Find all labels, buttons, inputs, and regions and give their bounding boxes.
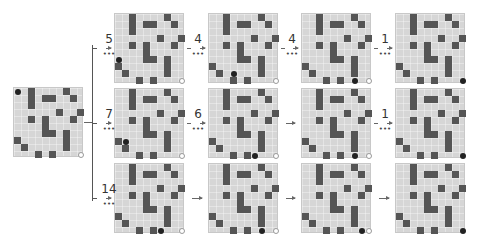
wall-cell: [129, 171, 136, 178]
wall-cell: [431, 77, 438, 84]
wall-cell: [445, 220, 452, 227]
wall-cell: [417, 77, 424, 84]
wall-cell: [223, 178, 230, 185]
wall-cell: [351, 213, 358, 220]
wall-cell: [351, 145, 358, 152]
wall-cell: [309, 220, 316, 227]
wall-cell: [265, 117, 272, 124]
wall-cell: [223, 21, 230, 28]
wall-cell: [216, 145, 223, 152]
wall-cell: [115, 138, 122, 145]
wall-cell: [431, 21, 438, 28]
wall-cell: [150, 206, 157, 213]
wall-cell: [337, 206, 344, 213]
wall-cell: [351, 164, 358, 171]
wall-cell: [251, 110, 258, 117]
wall-cell: [445, 63, 452, 70]
wall-cell: [337, 131, 344, 138]
agent-icon: [460, 153, 466, 159]
connector-line: [84, 122, 92, 123]
wall-cell: [424, 117, 431, 124]
wall-cell: [358, 21, 365, 28]
wall-cell: [351, 89, 358, 96]
wall-cell: [251, 35, 258, 42]
wall-cell: [330, 124, 337, 131]
wall-cell: [63, 137, 70, 144]
wall-cell: [410, 164, 417, 171]
wall-cell: [445, 164, 452, 171]
wall-cell: [445, 14, 452, 21]
wall-cell: [330, 171, 337, 178]
wall-cell: [223, 96, 230, 103]
wall-cell: [410, 42, 417, 49]
wall-cell: [323, 152, 330, 159]
wall-cell: [164, 220, 171, 227]
wall-cell: [265, 171, 272, 178]
step-count-label: 7: [97, 107, 121, 121]
wall-cell: [424, 192, 431, 199]
wall-cell: [431, 227, 438, 234]
wall-cell: [171, 96, 178, 103]
wall-cell: [452, 42, 459, 49]
agent-icon: [359, 228, 365, 234]
wall-cell: [129, 96, 136, 103]
wall-cell: [258, 63, 265, 70]
step-count-label: 6: [186, 107, 210, 121]
wall-cell: [410, 14, 417, 21]
wall-cell: [316, 14, 323, 21]
wall-cell: [410, 171, 417, 178]
wall-cell: [209, 213, 216, 220]
wall-cell: [258, 213, 265, 220]
step-count-label: 1: [373, 107, 397, 121]
wall-cell: [143, 42, 150, 49]
wall-cell: [164, 213, 171, 220]
wall-cell: [209, 138, 216, 145]
step-count-label: 4: [186, 32, 210, 46]
wall-cell: [129, 117, 136, 124]
wall-cell: [150, 227, 157, 234]
wall-cell: [164, 131, 171, 138]
ellipsis-dots: •••: [186, 125, 210, 133]
wall-cell: [403, 220, 410, 227]
wall-cell: [424, 21, 431, 28]
goal-icon: [273, 153, 279, 159]
step-count-label: 5: [97, 32, 121, 46]
wall-cell: [42, 123, 49, 130]
wall-cell: [417, 227, 424, 234]
wall-cell: [143, 124, 150, 131]
wall-cell: [129, 42, 136, 49]
initial-grid: [13, 87, 83, 157]
wall-cell: [337, 227, 344, 234]
wall-cell: [122, 220, 129, 227]
arrow-tail: [187, 123, 191, 124]
wall-cell: [244, 206, 251, 213]
wall-cell: [244, 227, 251, 234]
wall-cell: [230, 152, 237, 159]
wall-cell: [42, 95, 49, 102]
agent-icon: [158, 228, 164, 234]
wall-cell: [157, 35, 164, 42]
ellipsis-dots: •••: [373, 125, 397, 133]
wall-cell: [265, 192, 272, 199]
wall-cell: [316, 28, 323, 35]
wall-cell: [351, 206, 358, 213]
wall-cell: [143, 49, 150, 56]
wall-cell: [28, 102, 35, 109]
wall-cell: [410, 96, 417, 103]
arrow-tail: [281, 48, 285, 49]
wall-cell: [459, 35, 466, 42]
wall-cell: [237, 49, 244, 56]
arrow-icon: [387, 123, 392, 124]
wall-cell: [244, 21, 251, 28]
agent-icon: [123, 139, 129, 145]
wall-cell: [445, 213, 452, 220]
arrow-tail: [374, 48, 378, 49]
grid-top-1: [208, 13, 278, 83]
wall-cell: [164, 56, 171, 63]
wall-cell: [452, 117, 459, 124]
wall-cell: [258, 14, 265, 21]
grid-top-2: [301, 13, 371, 83]
wall-cell: [459, 185, 466, 192]
wall-cell: [323, 77, 330, 84]
wall-cell: [223, 103, 230, 110]
